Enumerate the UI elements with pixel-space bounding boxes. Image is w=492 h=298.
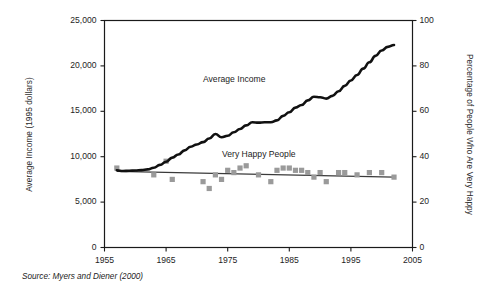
- x-tick-0: 1955: [82, 255, 128, 265]
- y-right-tick-1: 20: [420, 196, 460, 206]
- happy-marker: [213, 172, 218, 177]
- happy-marker: [293, 168, 298, 173]
- axis-ticks: [101, 21, 417, 252]
- y-axis-right-title: Percentage of People Who Are Very Happy: [465, 40, 474, 230]
- y-left-tick-3: 15,000: [45, 105, 97, 115]
- happy-marker: [268, 179, 273, 184]
- happy-marker: [219, 177, 224, 182]
- x-tick-2: 1975: [205, 255, 251, 265]
- happy-marker: [151, 172, 156, 177]
- x-tick-5: 2005: [390, 255, 436, 265]
- happy-marker: [170, 177, 175, 182]
- happy-marker: [244, 163, 249, 168]
- happy-marker: [367, 170, 372, 175]
- y-left-tick-4: 20,000: [45, 60, 97, 70]
- happy-marker: [281, 165, 286, 170]
- happy-marker: [318, 170, 323, 175]
- happy-marker: [237, 165, 242, 170]
- y-right-tick-2: 40: [420, 151, 460, 161]
- average-income-label: Average Income: [203, 74, 265, 84]
- y-left-tick-1: 5,000: [45, 196, 97, 206]
- y-right-tick-4: 80: [420, 60, 460, 70]
- happy-marker: [274, 168, 279, 173]
- happy-marker: [305, 170, 310, 175]
- happy-marker: [299, 168, 304, 173]
- axes-frame: [105, 21, 413, 248]
- y-left-tick-5: 25,000: [45, 15, 97, 25]
- happy-marker: [354, 172, 359, 177]
- very-happy-people-label: Very Happy People: [222, 149, 296, 159]
- happy-marker: [324, 179, 329, 184]
- happy-marker: [207, 186, 212, 191]
- happy-marker: [287, 165, 292, 170]
- happy-marker: [342, 170, 347, 175]
- y-axis-left-title: Average Income (1995 dollars): [25, 40, 34, 230]
- y-right-tick-5: 100: [420, 15, 460, 25]
- happy-marker: [256, 172, 261, 177]
- happy-marker: [379, 170, 384, 175]
- happy-marker: [225, 168, 230, 173]
- y-left-tick-0: 0: [45, 242, 97, 252]
- x-tick-3: 1985: [266, 255, 312, 265]
- happy-trend-line: [117, 171, 394, 177]
- happy-marker: [336, 170, 341, 175]
- chart-figure: Average Income (1995 dollars) Percentage…: [0, 0, 492, 298]
- y-right-tick-0: 0: [420, 242, 460, 252]
- source-note: Source: Myers and Diener (2000): [22, 272, 143, 281]
- happy-marker: [200, 179, 205, 184]
- happy-marker: [311, 175, 316, 180]
- y-right-tick-3: 60: [420, 105, 460, 115]
- happy-marker: [391, 175, 396, 180]
- happy-marker: [231, 170, 236, 175]
- y-left-tick-2: 10,000: [45, 151, 97, 161]
- x-tick-4: 1995: [328, 255, 374, 265]
- x-tick-1: 1965: [143, 255, 189, 265]
